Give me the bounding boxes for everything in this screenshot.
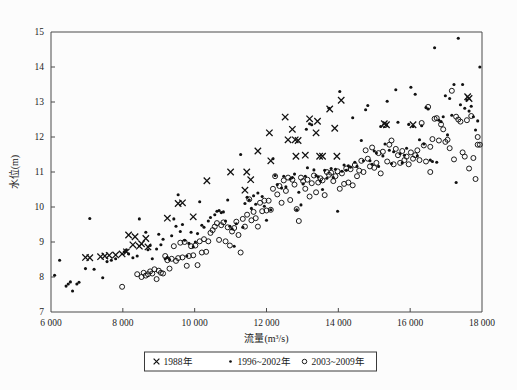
series-3 [120,88,483,289]
point-marker-circle [309,181,314,186]
point-marker-cross [138,241,144,247]
x-tick-label: 8 000 [112,318,134,328]
point-marker-circle [355,174,360,179]
axis-layer [51,32,482,312]
point-marker-cross [289,126,295,132]
point-marker-dot [229,360,232,363]
point-marker-dot [431,160,434,163]
point-marker-dot [396,121,399,124]
point-marker-circle [195,263,200,268]
point-marker-dot [202,226,205,229]
point-marker-dot [351,116,354,119]
y-tick-label: 11 [35,167,44,177]
point-marker-dot [110,259,113,262]
point-marker-dot [457,37,460,40]
point-marker-circle [393,146,398,151]
point-marker-dot [271,157,274,160]
point-marker-circle [236,233,241,238]
point-marker-circle [363,148,368,153]
point-marker-dot [418,138,421,141]
point-marker-circle [206,239,211,244]
point-marker-circle [275,192,280,197]
point-marker-dot [263,205,266,208]
point-marker-dot [226,198,229,201]
point-marker-circle [451,157,456,162]
point-marker-dot [388,149,391,152]
point-marker-circle [245,212,250,217]
point-marker-dot [284,185,287,188]
point-marker-dot [327,107,330,110]
point-marker-dot [177,193,180,196]
point-marker-circle [184,263,189,268]
point-marker-cross [204,178,210,184]
point-marker-dot [407,123,410,126]
point-marker-dot [157,233,160,236]
point-marker-cross [306,116,312,122]
point-marker-dot [293,173,296,176]
point-marker-dot [261,195,264,198]
point-marker-dot [172,217,175,220]
point-marker-circle [365,156,370,161]
point-marker-circle [167,266,172,271]
point-marker-dot [213,213,216,216]
point-marker-circle [120,284,125,289]
point-marker-cross [164,215,170,221]
point-marker-cross [130,242,136,248]
point-marker-circle [251,209,256,214]
point-marker-dot [222,210,225,213]
point-marker-circle [255,224,260,229]
point-marker-dot [310,123,313,126]
point-marker-circle [389,138,394,143]
point-marker-dot [433,46,436,49]
point-marker-dot [312,168,315,171]
x-tick-label: 6 000 [40,318,62,328]
point-marker-circle [350,183,355,188]
point-marker-cross [125,232,131,238]
point-marker-circle [430,137,435,142]
point-marker-dot [190,231,193,234]
scatter-plot: 6 0008 00010 00012 00014 00016 00018 000… [0,0,517,390]
plot-frame [51,32,482,312]
point-marker-dot [448,97,451,100]
figure-container: 6 0008 00010 00012 00014 00016 00018 000… [0,0,517,390]
point-marker-dot [151,257,154,260]
point-marker-dot [386,100,389,103]
point-marker-cross [338,97,344,103]
point-marker-cross [175,200,181,206]
point-marker-dot [239,153,242,156]
point-marker-dot [444,94,447,97]
point-marker-dot [411,125,414,128]
point-marker-dot [144,231,147,234]
point-marker-dot [84,267,87,270]
y-axis-title: 水位(m) [8,155,21,189]
point-marker-cross [302,152,308,158]
point-marker-circle [475,135,480,140]
point-marker-dot [252,194,255,197]
point-marker-circle [331,179,336,184]
point-marker-cross [314,118,320,124]
point-marker-circle [288,198,293,203]
point-marker-dot [452,83,455,86]
point-marker-dot [53,274,56,277]
point-marker-circle [303,186,308,191]
point-marker-circle [400,149,405,154]
point-marker-cross [87,255,93,261]
point-marker-dot [305,128,308,131]
point-marker-circle [428,170,433,175]
point-marker-dot [179,230,182,233]
point-marker-dot [470,105,473,108]
point-marker-dot [465,98,468,101]
point-marker-dot [282,175,285,178]
point-marker-dot [127,252,130,255]
point-marker-circle [441,127,446,132]
y-tick-label: 13 [35,97,45,107]
x-tick-label: 14 000 [325,318,351,328]
point-marker-dot [446,133,449,136]
point-marker-cross [313,130,319,136]
point-marker-dot [468,110,471,113]
point-marker-dot [146,248,149,251]
point-marker-dot [360,139,363,142]
point-marker-circle [223,239,228,244]
y-tick-label: 7 [39,307,44,317]
point-marker-circle [154,277,159,282]
